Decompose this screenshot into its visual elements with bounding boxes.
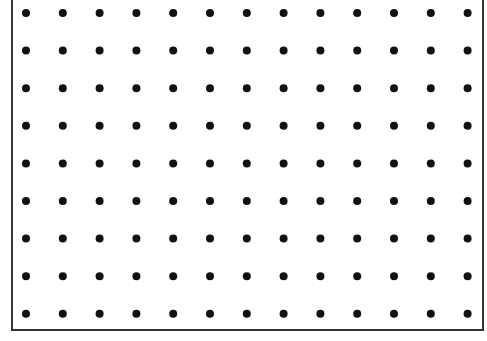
grid-dot — [390, 310, 398, 318]
grid-dot — [96, 159, 104, 167]
grid-dot — [59, 235, 67, 243]
grid-dot — [427, 310, 435, 318]
grid-dot — [132, 310, 140, 318]
grid-dot — [316, 197, 324, 205]
grid-dot — [59, 84, 67, 92]
grid-dot — [169, 159, 177, 167]
grid-dot — [353, 235, 361, 243]
grid-dot — [464, 235, 472, 243]
grid-dot — [169, 272, 177, 280]
grid-dot — [22, 47, 30, 55]
grid-dot — [22, 159, 30, 167]
grid-dot — [243, 47, 251, 55]
grid-dot — [169, 310, 177, 318]
grid-dot — [243, 235, 251, 243]
grid-dot — [280, 310, 288, 318]
grid-dot — [59, 197, 67, 205]
grid-dot — [243, 122, 251, 130]
grid-dot — [390, 159, 398, 167]
grid-dot — [316, 235, 324, 243]
grid-dot — [206, 47, 214, 55]
grid-dot — [316, 47, 324, 55]
grid-dot — [169, 197, 177, 205]
grid-dot — [22, 235, 30, 243]
grid-dot — [59, 159, 67, 167]
grid-dot — [59, 9, 67, 17]
grid-dot — [243, 272, 251, 280]
grid-dot — [132, 272, 140, 280]
grid-dot — [132, 47, 140, 55]
grid-dot — [353, 159, 361, 167]
grid-dot — [206, 9, 214, 17]
grid-dot — [464, 272, 472, 280]
dot-grid — [0, 0, 487, 341]
grid-dot — [464, 122, 472, 130]
grid-dot — [427, 9, 435, 17]
grid-dot — [206, 122, 214, 130]
grid-dot — [390, 235, 398, 243]
grid-dot — [390, 84, 398, 92]
grid-dot — [280, 235, 288, 243]
grid-dot — [280, 47, 288, 55]
grid-dot — [280, 9, 288, 17]
grid-dot — [169, 9, 177, 17]
grid-dot — [96, 9, 104, 17]
grid-dot — [353, 9, 361, 17]
grid-dot — [316, 84, 324, 92]
grid-dot — [464, 9, 472, 17]
grid-dot — [132, 159, 140, 167]
grid-dot — [390, 9, 398, 17]
grid-dot — [427, 122, 435, 130]
grid-dot — [132, 122, 140, 130]
grid-dot — [22, 197, 30, 205]
grid-dot — [427, 159, 435, 167]
grid-dot — [353, 197, 361, 205]
grid-dot — [464, 47, 472, 55]
grid-dot — [353, 122, 361, 130]
grid-dot — [206, 84, 214, 92]
grid-dot — [22, 272, 30, 280]
grid-dot — [390, 122, 398, 130]
grid-dot — [316, 122, 324, 130]
grid-dot — [464, 84, 472, 92]
grid-dot — [132, 235, 140, 243]
grid-dot — [390, 197, 398, 205]
grid-dot — [206, 235, 214, 243]
grid-dot — [280, 122, 288, 130]
grid-dot — [427, 197, 435, 205]
grid-dot — [59, 310, 67, 318]
grid-dot — [390, 47, 398, 55]
grid-dot — [316, 272, 324, 280]
grid-dot — [316, 310, 324, 318]
grid-dot — [243, 197, 251, 205]
grid-dot — [59, 47, 67, 55]
grid-dot — [169, 122, 177, 130]
grid-dot — [243, 310, 251, 318]
grid-dot — [243, 84, 251, 92]
grid-dot — [22, 310, 30, 318]
grid-dot — [427, 47, 435, 55]
grid-dot — [132, 84, 140, 92]
grid-dot — [353, 310, 361, 318]
grid-dot — [96, 235, 104, 243]
grid-dot — [280, 272, 288, 280]
grid-dot — [22, 84, 30, 92]
grid-dot — [206, 272, 214, 280]
grid-dot — [22, 9, 30, 17]
grid-dot — [96, 122, 104, 130]
grid-dot — [169, 47, 177, 55]
grid-dot — [316, 159, 324, 167]
grid-dot — [169, 235, 177, 243]
grid-dot — [96, 84, 104, 92]
grid-dot — [96, 197, 104, 205]
grid-dot — [132, 9, 140, 17]
grid-dot — [316, 9, 324, 17]
grid-dot — [206, 310, 214, 318]
grid-dot — [96, 47, 104, 55]
grid-dot — [96, 272, 104, 280]
grid-dot — [353, 47, 361, 55]
grid-dot — [427, 84, 435, 92]
grid-dot — [464, 159, 472, 167]
grid-dot — [243, 9, 251, 17]
grid-dot — [169, 84, 177, 92]
